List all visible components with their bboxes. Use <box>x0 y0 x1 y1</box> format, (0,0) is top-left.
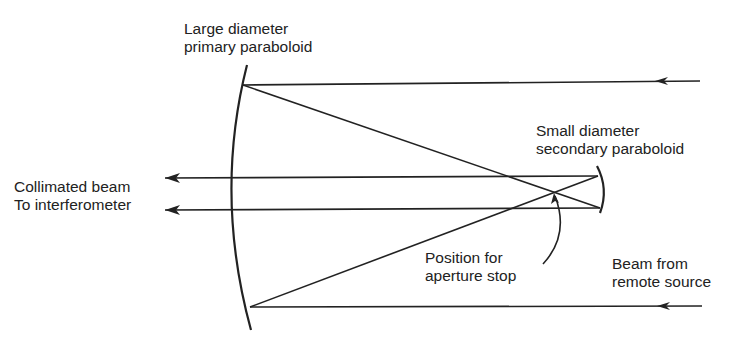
arrow-icon <box>551 193 559 204</box>
collimated-beam-bottom <box>165 208 600 210</box>
label-primary-paraboloid: Large diameter primary paraboloid <box>184 20 312 56</box>
diagram-drawing <box>0 0 736 351</box>
collimated-beam-top <box>165 176 598 178</box>
aperture-pointer <box>543 196 560 264</box>
label-aperture-stop: Position for aperture stop <box>425 249 516 285</box>
label-secondary-paraboloid: Small diameter secondary paraboloid <box>536 122 684 158</box>
incoming-beam-bottom <box>250 306 702 307</box>
secondary-paraboloid-mirror <box>597 166 604 213</box>
optics-diagram: Large diameter primary paraboloid Small … <box>0 0 736 351</box>
reflected-ray-bottom <box>250 176 598 307</box>
incoming-beam-top <box>243 81 700 85</box>
label-collimated-beam: Collimated beam To interferometer <box>14 178 131 214</box>
primary-paraboloid-mirror <box>231 65 251 330</box>
label-remote-source: Beam from remote source <box>612 255 711 291</box>
